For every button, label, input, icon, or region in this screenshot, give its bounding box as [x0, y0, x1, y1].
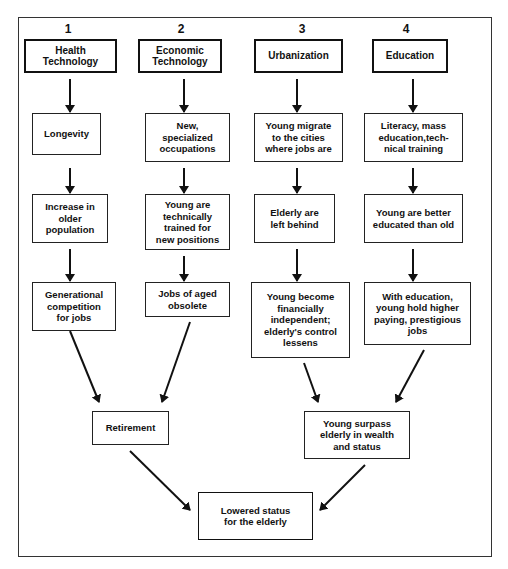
- arrow-diagonal-icon: [304, 363, 318, 402]
- arrow-diagonal-icon: [162, 322, 190, 402]
- arrows-layer: [0, 0, 508, 569]
- arrow-diagonal-icon: [396, 350, 424, 402]
- arrow-diagonal-icon: [70, 331, 99, 402]
- arrow-diagonal-icon: [320, 465, 365, 510]
- arrow-diagonal-icon: [130, 451, 190, 510]
